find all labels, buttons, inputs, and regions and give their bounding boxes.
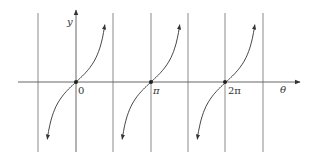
tick-label-0: 0	[78, 85, 84, 96]
x-axis-label: θ	[280, 84, 286, 95]
tangent-graph: y θ 0 π 2π	[0, 0, 312, 160]
y-axis-label: y	[66, 16, 73, 27]
tick-label-pi: π	[152, 85, 160, 96]
tick-label-2pi: 2π	[228, 85, 241, 96]
